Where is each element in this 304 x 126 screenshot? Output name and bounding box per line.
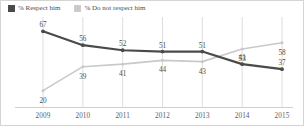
data-point-2014[interactable] — [240, 62, 244, 66]
x-tick-label-2011: 2011 — [115, 111, 130, 121]
legend-item-do-not-respect: % Do not respect him — [74, 4, 145, 12]
chart-gridlines — [43, 17, 282, 107]
x-tick-label-2015: 2015 — [275, 111, 290, 121]
data-point-2010[interactable] — [81, 65, 84, 68]
data-point-2013[interactable] — [201, 60, 204, 63]
chart-plot-area — [1, 17, 304, 107]
data-point-2013[interactable] — [200, 50, 204, 54]
data-point-2015[interactable] — [280, 67, 284, 71]
legend-label-respect: % Respect him — [18, 4, 60, 12]
data-point-2012[interactable] — [161, 50, 165, 54]
chart-figure: % Respect him % Do not respect him 67565… — [0, 0, 304, 126]
data-point-2015[interactable] — [281, 41, 284, 44]
data-point-2010[interactable] — [81, 43, 85, 47]
x-tick-label-2010: 2010 — [75, 111, 90, 121]
x-axis-labels: 2009201020112012201320142015 — [1, 111, 304, 125]
legend-item-respect: % Respect him — [8, 4, 60, 12]
legend-swatch-light-icon — [74, 5, 81, 12]
x-axis-rule — [15, 107, 293, 108]
x-tick-label-2014: 2014 — [235, 111, 250, 121]
legend-label-do-not-respect: % Do not respect him — [84, 4, 145, 12]
legend-swatch-dark-icon — [8, 5, 15, 12]
x-tick-label-2009: 2009 — [36, 111, 51, 121]
chart-svg — [1, 17, 304, 107]
chart-legend: % Respect him % Do not respect him — [8, 4, 145, 12]
data-point-2012[interactable] — [161, 59, 164, 62]
data-point-2009[interactable] — [42, 89, 45, 92]
x-tick-label-2013: 2013 — [195, 111, 210, 121]
data-point-2014[interactable] — [241, 48, 244, 51]
data-point-2011[interactable] — [121, 48, 125, 52]
data-point-2011[interactable] — [121, 63, 124, 66]
x-tick-label-2012: 2012 — [155, 111, 170, 121]
data-point-2009[interactable] — [41, 29, 45, 33]
